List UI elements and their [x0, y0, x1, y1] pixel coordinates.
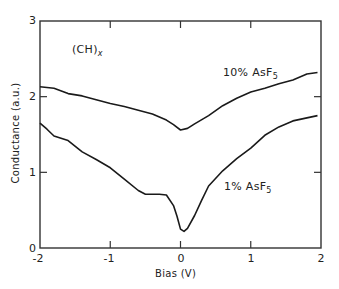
series-label-10-main: 10% AsF: [223, 66, 273, 79]
y-tick-label-3: 3: [22, 15, 36, 26]
x-tick-label-0: 0: [171, 253, 191, 264]
conductance-chart: [0, 0, 339, 289]
x-tick-label-neg2: -2: [28, 253, 48, 264]
material-label-sub: x: [98, 49, 103, 58]
x-tick-label-neg1: -1: [99, 253, 119, 264]
x-tick-label-1: 1: [241, 253, 261, 264]
series-label-1-percent: 1% AsF5: [224, 180, 272, 195]
x-tick-label-2: 2: [311, 253, 331, 264]
y-tick-label-2: 2: [22, 91, 36, 102]
series-label-1-main: 1% AsF: [224, 180, 266, 193]
x-axis-title: Bias (V): [155, 268, 196, 279]
material-label: (CH)x: [72, 43, 103, 58]
series-label-10-percent: 10% AsF5: [223, 66, 278, 81]
y-axis-title: Conductance (a.u.): [10, 84, 21, 184]
series-label-1-sub: 5: [266, 186, 271, 195]
curve-1-percent-asf5: [40, 116, 318, 232]
y-tick-label-1: 1: [22, 167, 36, 178]
material-label-main: (CH): [72, 43, 98, 56]
series-label-10-sub: 5: [273, 72, 278, 81]
